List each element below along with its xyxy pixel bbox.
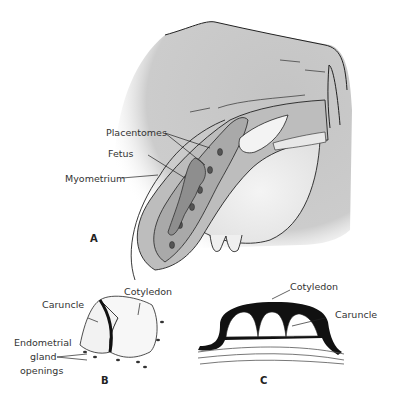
label-b-caruncle: Caruncle: [42, 299, 84, 310]
label-b-cotyledon: Cotyledon: [124, 286, 172, 297]
label-gland-line3: openings: [20, 365, 63, 376]
panel-letter-a: A: [90, 233, 98, 244]
label-c-caruncle: Caruncle: [335, 309, 377, 320]
label-gland-line2: gland: [30, 351, 57, 362]
panel-a-illustration: [114, 22, 352, 280]
panel-letter-c: C: [260, 375, 267, 386]
label-gland-line1: Endometrial: [14, 337, 72, 348]
label-myometrium: Myometrium: [65, 173, 125, 184]
placentation-diagram: Placentomes Fetus Myometrium A Cotyledon…: [0, 0, 393, 395]
label-c-cotyledon: Cotyledon: [290, 281, 338, 292]
label-fetus: Fetus: [108, 148, 134, 159]
panel-c-illustration: [198, 290, 344, 364]
label-placentomes: Placentomes: [106, 127, 167, 138]
panel-letter-b: B: [101, 375, 109, 386]
